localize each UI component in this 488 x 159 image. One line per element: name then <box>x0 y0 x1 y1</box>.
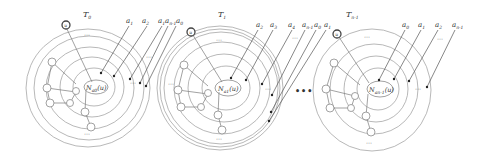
graph-node <box>326 104 334 112</box>
ring <box>202 66 250 110</box>
graph-node <box>322 85 330 93</box>
svg-text:u: u <box>64 23 67 28</box>
center-label: Nan-1(u) <box>368 86 394 95</box>
arrow-label: an-1 <box>452 21 463 30</box>
graph-node <box>180 61 188 69</box>
arrow-label: a1 <box>158 17 165 26</box>
svg-text:⋯: ⋯ <box>84 130 91 137</box>
graph-node <box>330 59 338 67</box>
graph-node <box>214 111 222 119</box>
graph-node <box>362 112 370 120</box>
svg-text:u: u <box>335 32 338 37</box>
svg-text:⋯: ⋯ <box>265 85 272 92</box>
arrow-label: a1 <box>418 21 425 30</box>
panel-title: T1 <box>218 10 226 20</box>
graph-node <box>67 100 74 107</box>
graph-node <box>43 84 51 92</box>
panel-t0: T0 Na0(u) u ⋯ ⋯ ⋯ ⋯ <box>26 10 183 147</box>
svg-text:⋯: ⋯ <box>366 139 373 146</box>
arrow-label: a2 <box>435 21 442 30</box>
diagram-canvas: T0 Na0(u) u ⋯ ⋯ ⋯ ⋯ <box>0 0 488 159</box>
graph-node <box>48 58 56 66</box>
arrow-label: a0 <box>176 17 183 26</box>
panel-tn-1: Tn-1 Nan-1(u) u ⋯ ⋯ ⋯ ⋯ <box>313 10 463 151</box>
panel-title: T0 <box>83 10 91 20</box>
graph-node <box>367 128 375 136</box>
center-label: Na0(u) <box>85 84 107 93</box>
arrow-label: a3 <box>270 21 277 30</box>
graph-node <box>46 99 54 107</box>
between-panels-ellipsis: ••• <box>295 87 313 96</box>
graph-node <box>198 104 205 111</box>
svg-text:⋯: ⋯ <box>292 34 299 41</box>
graph-node <box>352 93 359 100</box>
graph-node <box>348 105 355 112</box>
ring <box>344 56 408 122</box>
arrow-label: an-1 <box>302 21 313 30</box>
ring <box>60 57 124 117</box>
panel-t1: T1 Na1(u) u ⋯ ⋯ ⋯ ⋯ ⋯ <box>157 10 331 150</box>
graph-node <box>218 126 226 134</box>
ring <box>73 68 115 106</box>
arrow-label: a0 <box>314 21 321 30</box>
svg-text:⋯: ⋯ <box>415 85 422 92</box>
graph-node <box>205 90 212 97</box>
arrow-label: a0 <box>402 21 409 30</box>
arrow-label: an-1 <box>165 17 176 26</box>
svg-text:⋯: ⋯ <box>364 33 371 40</box>
svg-text:⋯: ⋯ <box>168 80 175 87</box>
graph-node <box>177 103 185 111</box>
graph-node <box>73 88 80 95</box>
arrow-label: a2 <box>142 17 149 26</box>
svg-text:⋯: ⋯ <box>437 35 444 42</box>
svg-text:⋯: ⋯ <box>84 31 91 38</box>
graph-node <box>174 86 182 94</box>
svg-text:u: u <box>189 30 192 35</box>
arrow-label: a1 <box>324 21 331 30</box>
center-label: Na1(u) <box>217 85 239 94</box>
arrow-label: a1 <box>126 17 133 26</box>
svg-text:⋯: ⋯ <box>216 135 223 142</box>
arrow-label: a2 <box>256 21 263 30</box>
svg-text:⋯: ⋯ <box>130 79 137 86</box>
ring <box>188 54 260 122</box>
graph-node <box>81 108 89 116</box>
arrow-label: a4 <box>288 21 295 30</box>
svg-text:⋯: ⋯ <box>216 36 223 43</box>
panel-title: Tn-1 <box>346 10 359 20</box>
